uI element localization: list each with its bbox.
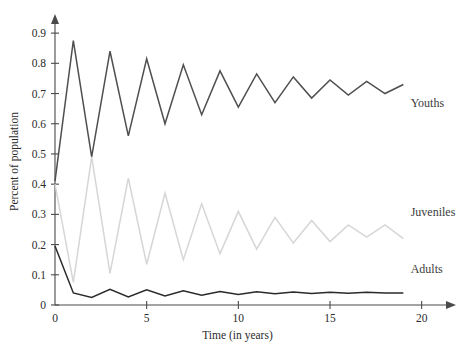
- y-tick-label: 0.2: [32, 239, 47, 251]
- x-axis: 05101520: [52, 301, 456, 324]
- series-label-adults: Adults: [411, 262, 443, 276]
- x-tick-label: 5: [144, 312, 150, 324]
- line-chart-canvas: 00.10.20.30.40.50.60.70.80.9 05101520 Yo…: [0, 0, 461, 345]
- y-tick-label: 0.1: [32, 269, 47, 281]
- y-tick-label: 0.5: [32, 148, 47, 160]
- y-axis-arrow-icon: [51, 14, 59, 24]
- y-tick-label: 0.8: [32, 57, 47, 69]
- series-line-youths: [55, 41, 403, 181]
- x-axis-title: Time (in years): [202, 329, 273, 342]
- series-line-juveniles: [55, 157, 403, 282]
- series-label-youths: Youths: [411, 96, 445, 110]
- series-lines: [55, 41, 403, 298]
- y-tick-label: 0.7: [32, 88, 47, 100]
- y-tick-label: 0.9: [32, 27, 47, 39]
- chart-figure: 00.10.20.30.40.50.60.70.80.9 05101520 Yo…: [0, 0, 461, 345]
- x-tick-label: 15: [324, 312, 336, 324]
- x-axis-arrow-icon: [446, 301, 456, 309]
- y-tick-label: 0: [40, 299, 46, 311]
- y-tick-label: 0.6: [32, 118, 47, 130]
- y-tick-label: 0.4: [32, 178, 47, 190]
- x-tick-label: 10: [233, 312, 245, 324]
- x-tick-label: 20: [416, 312, 428, 324]
- y-axis-title: Percent of population: [8, 112, 21, 211]
- x-tick-label: 0: [52, 312, 58, 324]
- series-labels: YouthsJuvenilesAdults: [411, 96, 456, 276]
- axis-titles: Time (in years)Percent of population: [8, 112, 273, 342]
- series-label-juveniles: Juveniles: [411, 205, 456, 219]
- y-axis: 00.10.20.30.40.50.60.70.80.9: [32, 14, 59, 311]
- y-tick-label: 0.3: [32, 208, 47, 220]
